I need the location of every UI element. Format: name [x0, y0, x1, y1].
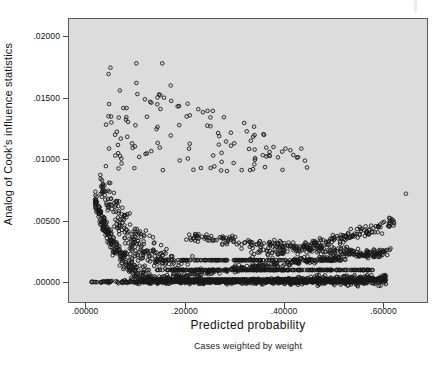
- x-tick-mark: [185, 303, 186, 308]
- y-tick-label: .01500: [14, 93, 60, 103]
- scatter-plot-figure: Analog of Cook's influence statistics .0…: [0, 0, 447, 367]
- y-tick-label: .00500: [14, 216, 60, 226]
- y-tick-label: .00000: [14, 277, 60, 287]
- y-tick-label: .01000: [14, 154, 60, 164]
- x-axis-title: Predicted probability: [68, 318, 428, 332]
- x-tick-mark: [284, 303, 285, 308]
- scatter-points-layer: [69, 19, 427, 302]
- figure-caption: Cases weighted by weight: [68, 341, 428, 351]
- plot-area: [68, 18, 428, 303]
- y-axis-title: Analog of Cook's influence statistics: [2, 0, 14, 284]
- scan-artifact-top-right: [414, 0, 417, 12]
- x-tick-mark: [85, 303, 86, 308]
- y-tick-label: .02000: [14, 31, 60, 41]
- x-tick-mark: [383, 303, 384, 308]
